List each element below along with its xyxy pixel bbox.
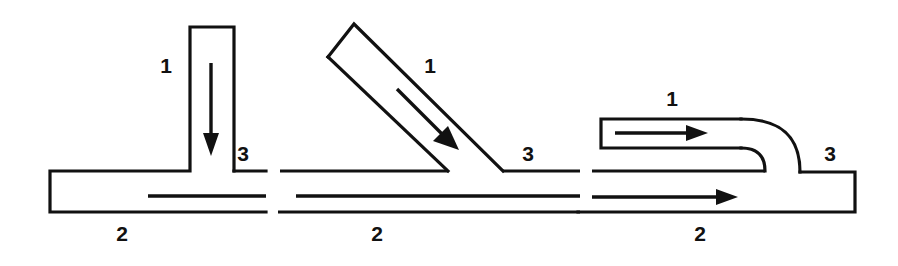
panel-curved-elbow: 1 2 3 bbox=[578, 87, 855, 245]
duct-junction-figure: 1 2 3 1 2 3 bbox=[0, 0, 898, 266]
label-main-wye: 2 bbox=[371, 222, 383, 245]
label-main-tee: 2 bbox=[116, 222, 128, 245]
label-branch-tee: 1 bbox=[160, 54, 172, 77]
diagram-canvas: 1 2 3 1 2 3 bbox=[0, 0, 898, 266]
label-combined-elbow: 3 bbox=[824, 142, 836, 165]
branch-upper-wall-wye bbox=[328, 24, 503, 171]
duct-outline-tee bbox=[50, 27, 266, 212]
branch-flow-arrow-elbow bbox=[615, 125, 708, 141]
label-main-elbow: 2 bbox=[694, 222, 706, 245]
label-combined-wye: 3 bbox=[522, 142, 534, 165]
panel-perpendicular-tee: 1 2 3 bbox=[50, 27, 266, 245]
main-flow-arrow-elbow bbox=[592, 189, 738, 205]
panel-angled-wye: 1 2 3 bbox=[278, 24, 580, 245]
elbow-outer-curve bbox=[741, 119, 800, 172]
elbow-inner-curve bbox=[741, 148, 765, 171]
label-combined-tee: 3 bbox=[237, 142, 249, 165]
label-branch-wye: 1 bbox=[424, 54, 436, 77]
branch-flow-arrow-tee bbox=[203, 63, 219, 156]
label-branch-elbow: 1 bbox=[666, 87, 678, 110]
